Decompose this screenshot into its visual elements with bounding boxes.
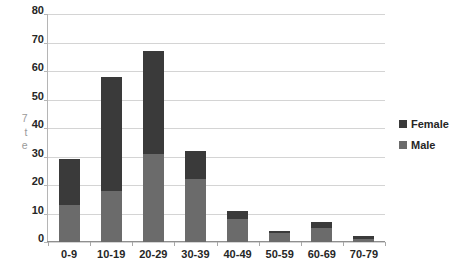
y-axis-label-20: 20 <box>14 175 44 187</box>
x-axis-tick-labels: 0-910-1920-2930-3940-4950-5960-6970-79 <box>48 248 385 268</box>
legend-swatch-icon-female <box>399 120 407 128</box>
y-axis-label-60: 60 <box>14 61 44 73</box>
plot-area <box>48 14 385 242</box>
bar-10-19[interactable] <box>101 77 122 242</box>
y-tick-30 <box>44 157 48 158</box>
y-axis-label-70: 70 <box>14 33 44 45</box>
gridline-30 <box>48 157 385 158</box>
y-axis-label-10: 10 <box>14 204 44 216</box>
legend-label-male: Male <box>411 139 435 151</box>
bar-segment-female-70-79[interactable] <box>353 236 374 239</box>
y-tick-70 <box>44 43 48 44</box>
y-axis-tick-labels: 01020304050607080 <box>14 10 44 242</box>
x-tick-5 <box>259 242 260 246</box>
bar-segment-male-50-59[interactable] <box>269 233 290 242</box>
bar-segment-male-30-39[interactable] <box>185 179 206 242</box>
bar-segment-male-20-29[interactable] <box>143 154 164 242</box>
bar-segment-male-70-79[interactable] <box>353 239 374 242</box>
x-axis-label-50-59: 50-59 <box>266 248 294 260</box>
bar-70-79[interactable] <box>353 236 374 242</box>
gridline-70 <box>48 43 385 44</box>
bar-segment-female-10-19[interactable] <box>101 77 122 191</box>
bar-20-29[interactable] <box>143 51 164 242</box>
legend-swatch-icon-male <box>399 141 407 149</box>
bar-60-69[interactable] <box>311 222 332 242</box>
x-tick-6 <box>301 242 302 246</box>
x-axis-label-0-9: 0-9 <box>61 248 77 260</box>
y-axis-label-50: 50 <box>14 90 44 102</box>
x-axis-label-60-69: 60-69 <box>308 248 336 260</box>
bar-segment-female-50-59[interactable] <box>269 231 290 234</box>
legend-item-male[interactable]: Male <box>399 139 471 151</box>
stacked-bar-chart: 7 t e 01020304050607080 0-910-1920-2930-… <box>0 0 473 273</box>
y-tick-40 <box>44 128 48 129</box>
y-axis-label-30: 30 <box>14 147 44 159</box>
gridline-80 <box>48 14 385 15</box>
x-tick-7 <box>343 242 344 246</box>
x-tick-4 <box>217 242 218 246</box>
gridline-60 <box>48 71 385 72</box>
bar-40-49[interactable] <box>227 211 248 242</box>
x-tick-2 <box>132 242 133 246</box>
x-axis-label-40-49: 40-49 <box>223 248 251 260</box>
x-tick-0 <box>48 242 49 246</box>
legend-label-female: Female <box>411 118 449 130</box>
x-axis-label-70-79: 70-79 <box>350 248 378 260</box>
x-tick-1 <box>90 242 91 246</box>
gridline-50 <box>48 100 385 101</box>
bar-segment-male-10-19[interactable] <box>101 191 122 242</box>
gridline-40 <box>48 128 385 129</box>
x-tick-3 <box>174 242 175 246</box>
bar-0-9[interactable] <box>59 159 80 242</box>
bar-segment-male-0-9[interactable] <box>59 205 80 242</box>
x-axis-label-10-19: 10-19 <box>97 248 125 260</box>
y-tick-80 <box>44 14 48 15</box>
bar-50-59[interactable] <box>269 231 290 242</box>
x-tick-8 <box>385 242 386 246</box>
legend-item-female[interactable]: Female <box>399 118 471 130</box>
gridline-10 <box>48 214 385 215</box>
chart-legend: FemaleMale <box>399 118 471 160</box>
bar-segment-female-0-9[interactable] <box>59 159 80 205</box>
y-tick-50 <box>44 100 48 101</box>
bar-segment-male-60-69[interactable] <box>311 228 332 242</box>
bar-segment-female-60-69[interactable] <box>311 222 332 228</box>
y-axis-label-0: 0 <box>14 232 44 244</box>
y-axis-label-40: 40 <box>14 118 44 130</box>
y-tick-60 <box>44 71 48 72</box>
gridline-20 <box>48 185 385 186</box>
bar-30-39[interactable] <box>185 151 206 242</box>
y-tick-10 <box>44 214 48 215</box>
bar-segment-male-40-49[interactable] <box>227 219 248 242</box>
bar-segment-female-20-29[interactable] <box>143 51 164 154</box>
y-axis-label-80: 80 <box>14 4 44 16</box>
bar-segment-female-40-49[interactable] <box>227 211 248 220</box>
bar-segment-female-30-39[interactable] <box>185 151 206 180</box>
x-axis-label-30-39: 30-39 <box>181 248 209 260</box>
y-tick-20 <box>44 185 48 186</box>
x-axis-label-20-29: 20-29 <box>139 248 167 260</box>
